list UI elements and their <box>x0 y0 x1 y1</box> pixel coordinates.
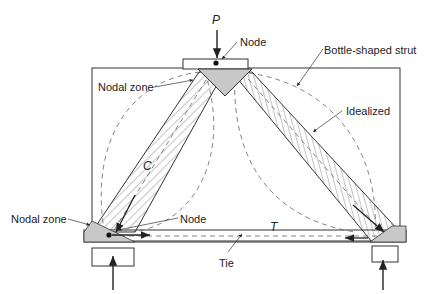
top-node-dot <box>213 60 218 65</box>
nodal-zone-left-label: Nodal zone <box>11 213 67 225</box>
compression-label: C <box>143 160 152 172</box>
nodal-zone-top-label: Nodal zone <box>98 81 154 93</box>
left-strut <box>92 72 224 232</box>
idealized-label: Idealized <box>346 105 390 117</box>
bottle-strut-label: Bottle-shaped strut <box>324 44 416 56</box>
node-bottom-label: Node <box>180 213 206 225</box>
right-bearing-plate <box>372 246 398 262</box>
tension-label: T <box>270 221 277 233</box>
load-label: P <box>212 14 220 26</box>
node-top-label: Node <box>240 36 266 48</box>
tie-label: Tie <box>219 257 234 269</box>
strut-and-tie-diagram: P Node Bottle-shaped strut Nodal zone Id… <box>0 0 428 294</box>
bottom-node-dot <box>106 232 111 237</box>
